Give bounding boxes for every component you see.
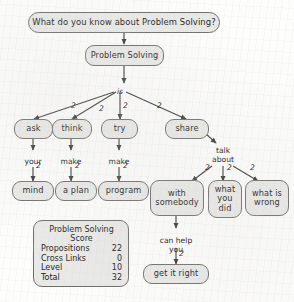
link-label-talk-about: talk about: [204, 139, 242, 164]
node-share-label: share: [175, 124, 198, 133]
score-box-title: Problem Solving Score: [41, 225, 122, 244]
edge-is-to-share: [126, 92, 186, 119]
node-try[interactable]: try: [101, 119, 138, 139]
node-with-somebody[interactable]: with somebody: [150, 180, 204, 216]
count-label-make-program: 2: [123, 161, 128, 170]
score-label-cross-links: Cross Links: [41, 254, 108, 264]
score-row-cross-links: Cross Links 0: [41, 254, 122, 264]
node-what-is-wrong[interactable]: what is wrong: [245, 180, 289, 216]
node-program-label: program: [106, 186, 142, 195]
count-label-with-somebody: 2: [205, 163, 210, 172]
node-get-it-right-label: get it right: [154, 269, 199, 278]
score-label-level: Level: [41, 263, 108, 273]
count-label-think: 2: [99, 104, 104, 113]
link-label-is: is: [112, 80, 128, 97]
link-label-can-help-you: can help you: [152, 229, 200, 254]
score-value-cross-links: 0: [108, 254, 122, 264]
node-a-plan[interactable]: a plan: [55, 181, 97, 201]
node-question-label: What do you know about Problem Solving?: [32, 18, 215, 27]
score-row-propositions: Propositions 22: [41, 244, 122, 254]
count-label-your: 2: [36, 161, 41, 170]
node-think-label: think: [61, 124, 82, 133]
score-label-propositions: Propositions: [41, 244, 108, 254]
node-program[interactable]: program: [98, 181, 149, 201]
count-label-can-help-you: 2: [179, 249, 184, 258]
node-share[interactable]: share: [165, 119, 209, 139]
node-a-plan-label: a plan: [63, 186, 89, 195]
count-label-share: 2: [157, 101, 162, 110]
concept-map-canvas: What do you know about Problem Solving? …: [0, 0, 294, 302]
count-label-make-plan: 2: [75, 161, 80, 170]
score-row-total: Total 32: [41, 273, 122, 283]
score-box: Problem Solving Score Propositions 22 Cr…: [33, 220, 129, 287]
link-label-make-program: make: [102, 150, 136, 167]
node-question[interactable]: What do you know about Problem Solving?: [28, 12, 220, 33]
node-mind[interactable]: mind: [12, 181, 54, 201]
node-with-somebody-label: with somebody: [155, 189, 198, 207]
node-ask[interactable]: ask: [14, 119, 53, 139]
node-what-is-wrong-label: what is wrong: [252, 189, 282, 207]
edge-is-to-think: [72, 92, 116, 119]
score-value-total: 32: [108, 273, 122, 283]
node-what-you-did-label: what you did: [215, 185, 236, 213]
score-box-table: Propositions 22 Cross Links 0 Level 10 T…: [41, 244, 122, 283]
link-label-make-plan: make: [54, 150, 88, 167]
count-label-what-you-did: 2: [227, 163, 232, 172]
score-value-level: 10: [108, 263, 122, 273]
score-row-level: Level 10: [41, 263, 122, 273]
node-problem-solving-root[interactable]: Problem Solving: [85, 45, 164, 66]
node-get-it-right[interactable]: get it right: [143, 264, 209, 284]
score-value-propositions: 22: [108, 244, 122, 254]
node-try-label: try: [114, 124, 126, 133]
node-mind-label: mind: [22, 186, 43, 195]
score-label-total: Total: [41, 273, 108, 283]
link-label-your: your: [16, 150, 50, 167]
count-label-try: 2: [123, 101, 128, 110]
node-ask-label: ask: [26, 124, 40, 133]
node-what-you-did[interactable]: what you did: [208, 180, 242, 218]
count-label-ask: 2: [71, 101, 76, 110]
count-label-what-is-wrong: 2: [250, 163, 255, 172]
node-root-label: Problem Solving: [91, 51, 159, 60]
node-think[interactable]: think: [52, 119, 92, 139]
